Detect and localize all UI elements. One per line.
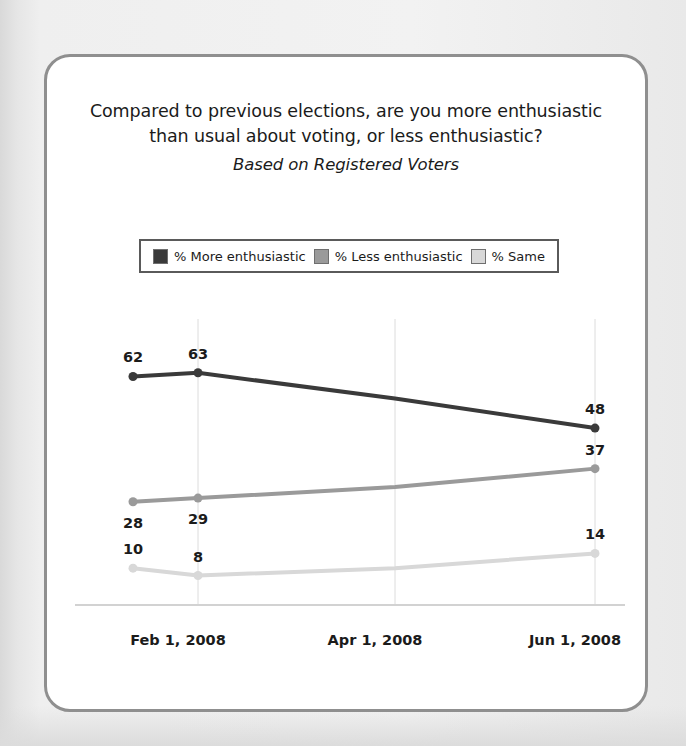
chart-value-label: 37 [585, 442, 605, 458]
chart-data-point [591, 424, 600, 433]
chart-value-label: 14 [585, 526, 605, 542]
legend-label: % Same [492, 249, 545, 264]
line-chart-plot: 62634828293710814 [67, 309, 633, 621]
chart-subtitle: Based on Registered Voters [47, 155, 645, 174]
chart-value-label: 48 [585, 401, 605, 417]
chart-data-point [194, 368, 203, 377]
legend-item-same: % Same [471, 249, 545, 264]
x-axis-label-row: Feb 1, 2008 Apr 1, 2008 Jun 1, 2008 [47, 632, 645, 662]
legend-swatch-icon [471, 249, 486, 264]
legend-swatch-icon [153, 249, 168, 264]
legend-item-less-enthusiastic: % Less enthusiastic [314, 249, 463, 264]
chart-data-point [194, 494, 203, 503]
chart-value-label: 62 [123, 349, 143, 365]
chart-value-label: 10 [123, 541, 143, 557]
chart-data-point [129, 497, 138, 506]
x-axis-tick-label: Jun 1, 2008 [529, 632, 621, 648]
x-axis-tick-label: Feb 1, 2008 [130, 632, 226, 648]
legend-label: % More enthusiastic [174, 249, 306, 264]
chart-value-label: 28 [123, 515, 143, 531]
chart-data-point [591, 464, 600, 473]
chart-data-point [194, 571, 203, 580]
chart-data-point [129, 564, 138, 573]
legend-item-more-enthusiastic: % More enthusiastic [153, 249, 306, 264]
chart-data-point [591, 549, 600, 558]
chart-title-line-2: than usual about voting, or less enthusi… [47, 124, 645, 149]
chart-card: Compared to previous elections, are you … [44, 54, 648, 712]
legend-swatch-icon [314, 249, 329, 264]
chart-svg: 62634828293710814 [67, 309, 633, 621]
chart-value-label: 29 [188, 511, 208, 527]
chart-value-label: 63 [188, 346, 208, 362]
chart-value-label: 8 [193, 549, 203, 565]
legend-label: % Less enthusiastic [335, 249, 463, 264]
chart-series-line [133, 373, 595, 428]
chart-title-line-1: Compared to previous elections, are you … [47, 99, 645, 124]
chart-title-block: Compared to previous elections, are you … [47, 99, 645, 174]
chart-data-point [129, 372, 138, 381]
chart-legend: % More enthusiastic % Less enthusiastic … [139, 239, 559, 273]
x-axis-tick-label: Apr 1, 2008 [328, 632, 423, 648]
